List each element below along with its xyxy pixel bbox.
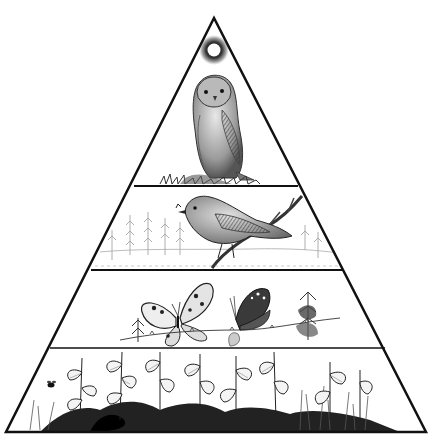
butterflies-illustration <box>120 283 340 346</box>
owl-illustration <box>160 75 260 184</box>
food-pyramid-illustration <box>0 0 433 442</box>
plants-illustration <box>30 352 400 432</box>
bee-icon <box>47 381 56 388</box>
songbird-illustration <box>95 196 345 268</box>
